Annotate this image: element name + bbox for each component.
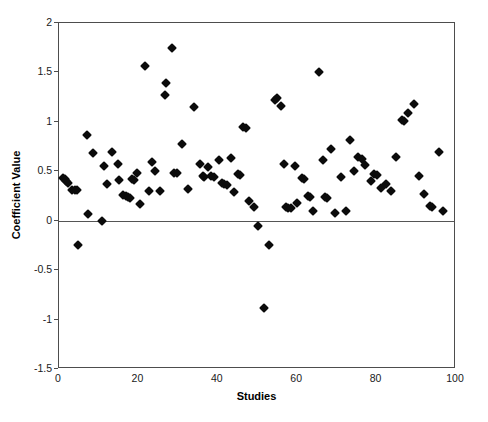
data-point bbox=[264, 240, 274, 250]
x-tick-label: 40 bbox=[197, 372, 237, 384]
y-tick-mark bbox=[54, 319, 58, 320]
x-tick-label: 20 bbox=[117, 372, 157, 384]
data-point bbox=[349, 166, 359, 176]
data-point bbox=[150, 166, 160, 176]
data-point bbox=[330, 208, 340, 218]
y-tick-label: 1.5 bbox=[12, 65, 58, 77]
data-point bbox=[99, 161, 109, 171]
y-tick-mark bbox=[54, 170, 58, 171]
y-tick-mark bbox=[54, 220, 58, 221]
y-axis-label-container: Coefficient Value bbox=[8, 0, 24, 390]
data-point bbox=[230, 187, 240, 197]
x-tick-label: 0 bbox=[38, 372, 78, 384]
data-point bbox=[438, 206, 448, 216]
data-point bbox=[279, 159, 289, 169]
plot-area bbox=[58, 22, 455, 368]
data-point bbox=[114, 175, 124, 185]
data-point bbox=[97, 216, 107, 226]
y-tick-mark bbox=[54, 22, 58, 23]
y-tick-label: 0 bbox=[12, 214, 58, 226]
data-point bbox=[314, 67, 324, 77]
data-point bbox=[161, 78, 171, 88]
data-point bbox=[318, 155, 328, 165]
data-point bbox=[160, 90, 170, 100]
data-point bbox=[140, 61, 150, 71]
data-point bbox=[144, 186, 154, 196]
data-point bbox=[259, 303, 269, 313]
data-point bbox=[290, 161, 300, 171]
data-point bbox=[336, 172, 346, 182]
data-point bbox=[177, 139, 187, 149]
x-tick-label: 80 bbox=[356, 372, 396, 384]
data-point bbox=[102, 179, 112, 189]
y-tick-label: 0.5 bbox=[12, 164, 58, 176]
data-point bbox=[189, 102, 199, 112]
data-point bbox=[409, 99, 419, 109]
y-tick-mark bbox=[54, 121, 58, 122]
data-point bbox=[235, 170, 245, 180]
data-point bbox=[113, 159, 123, 169]
data-point bbox=[308, 206, 318, 216]
y-tick-label: 2 bbox=[12, 16, 58, 28]
data-point bbox=[253, 221, 263, 231]
data-point bbox=[434, 147, 444, 157]
data-point bbox=[414, 171, 424, 181]
data-point bbox=[214, 155, 224, 165]
data-point bbox=[360, 160, 370, 170]
y-tick-label: -1 bbox=[12, 313, 58, 325]
data-point bbox=[419, 189, 429, 199]
data-point bbox=[391, 152, 401, 162]
data-point bbox=[107, 147, 117, 157]
x-axis-label: Studies bbox=[58, 390, 455, 402]
data-point bbox=[326, 144, 336, 154]
x-tick-label: 60 bbox=[276, 372, 316, 384]
scatter-chart-figure: Coefficient Value -1.5-1-0.500.511.52 02… bbox=[0, 0, 488, 422]
y-tick-mark bbox=[54, 368, 58, 369]
data-point bbox=[82, 130, 92, 140]
y-tick-mark bbox=[54, 269, 58, 270]
data-point bbox=[183, 184, 193, 194]
data-point bbox=[167, 43, 177, 53]
data-point bbox=[155, 186, 165, 196]
data-point bbox=[345, 135, 355, 145]
data-point bbox=[73, 240, 83, 250]
data-point bbox=[135, 199, 145, 209]
data-point bbox=[341, 206, 351, 216]
data-point bbox=[88, 148, 98, 158]
y-tick-mark bbox=[54, 71, 58, 72]
x-tick-label: 100 bbox=[435, 372, 475, 384]
data-point bbox=[83, 209, 93, 219]
data-point bbox=[226, 153, 236, 163]
y-tick-label: -0.5 bbox=[12, 263, 58, 275]
y-tick-label: 1 bbox=[12, 115, 58, 127]
data-point bbox=[386, 186, 396, 196]
